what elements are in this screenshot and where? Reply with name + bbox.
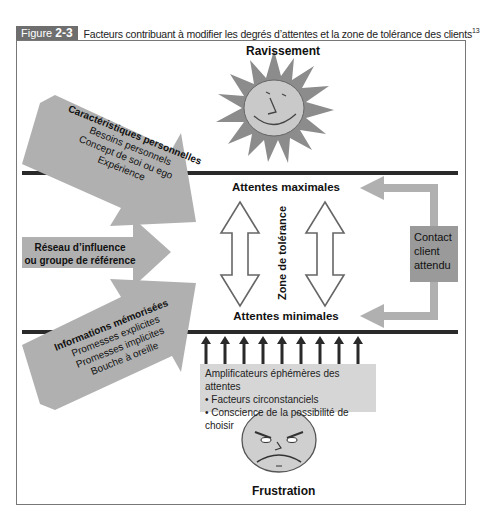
- contact-line: client: [414, 244, 454, 258]
- influence-network-text: Réseau d’influence ou groupe de référenc…: [22, 241, 138, 267]
- influence-line1: Réseau d’influence: [22, 241, 138, 254]
- delight-label: Ravissement: [246, 44, 320, 58]
- influence-line2: ou groupe de référence: [22, 254, 138, 267]
- zone-arrow-right: [306, 202, 344, 306]
- amplifier-item: • Conscience de la possibilité de choisi…: [205, 406, 371, 432]
- smiling-sun-icon: [216, 50, 334, 163]
- amplifiers-box: Amplificateurs éphémères des attentes • …: [200, 364, 376, 412]
- contact-line: attendu: [414, 258, 454, 272]
- zone-arrow-left: [221, 202, 259, 306]
- amplifier-item: • Facteurs circonstanciels: [205, 393, 371, 406]
- tolerance-zone-label: Zone de tolérance: [276, 183, 288, 323]
- contact-line: Contact: [414, 230, 454, 244]
- expected-contact-box: Contact client attendu: [410, 226, 458, 282]
- amplifiers-title: Amplificateurs éphémères des attentes: [205, 367, 371, 393]
- frustration-label: Frustration: [252, 484, 315, 498]
- amplifier-arrows: [201, 336, 363, 364]
